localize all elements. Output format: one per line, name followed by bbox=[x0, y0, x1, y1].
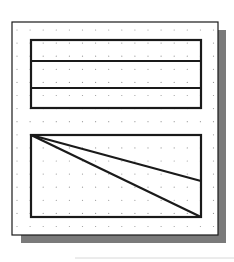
grid-dot bbox=[69, 121, 70, 122]
grid-dot bbox=[121, 147, 122, 148]
grid-dot bbox=[161, 43, 162, 44]
grid-dot bbox=[95, 174, 96, 175]
grid-dot bbox=[147, 43, 148, 44]
grid-dot bbox=[43, 187, 44, 188]
grid-dot bbox=[200, 226, 201, 227]
grid-dot bbox=[147, 174, 148, 175]
grid-dot bbox=[108, 226, 109, 227]
grid-dot bbox=[134, 187, 135, 188]
grid-dot bbox=[108, 200, 109, 201]
grid-dot bbox=[174, 56, 175, 57]
grid-dot bbox=[56, 95, 57, 96]
grid-dot bbox=[134, 56, 135, 57]
grid-dot bbox=[43, 160, 44, 161]
grid-dot bbox=[134, 29, 135, 30]
grid-dot bbox=[213, 200, 214, 201]
grid-dot bbox=[213, 69, 214, 70]
grid-dot bbox=[82, 174, 83, 175]
grid-dot bbox=[213, 174, 214, 175]
grid-dot bbox=[95, 200, 96, 201]
grid-dot bbox=[69, 213, 70, 214]
grid-dot bbox=[16, 108, 17, 109]
grid-dot bbox=[16, 213, 17, 214]
grid-dot bbox=[161, 69, 162, 70]
grid-dot bbox=[147, 95, 148, 96]
grid-dot bbox=[108, 43, 109, 44]
grid-dot bbox=[43, 95, 44, 96]
grid-dot bbox=[147, 200, 148, 201]
grid-dot bbox=[134, 95, 135, 96]
grid-dot bbox=[82, 29, 83, 30]
grid-dot bbox=[147, 213, 148, 214]
grid-dot bbox=[121, 82, 122, 83]
grid-dot bbox=[69, 160, 70, 161]
grid-dot bbox=[43, 213, 44, 214]
grid-dot bbox=[56, 187, 57, 188]
grid-dot bbox=[187, 29, 188, 30]
grid-dot bbox=[213, 82, 214, 83]
grid-dot bbox=[108, 213, 109, 214]
grid-dot bbox=[161, 95, 162, 96]
grid-dot bbox=[147, 187, 148, 188]
grid-dot bbox=[161, 174, 162, 175]
grid-dot bbox=[213, 213, 214, 214]
grid-dot bbox=[16, 29, 17, 30]
grid-dot bbox=[69, 174, 70, 175]
grid-dot bbox=[161, 29, 162, 30]
grid-dot bbox=[108, 82, 109, 83]
grid-dot bbox=[161, 226, 162, 227]
grid-dot bbox=[108, 187, 109, 188]
grid-dot bbox=[161, 213, 162, 214]
grid-dot bbox=[174, 187, 175, 188]
grid-dot bbox=[213, 187, 214, 188]
grid-dot bbox=[16, 174, 17, 175]
grid-dot bbox=[16, 69, 17, 70]
grid-dot bbox=[187, 174, 188, 175]
grid-dot bbox=[82, 69, 83, 70]
grid-dot bbox=[95, 226, 96, 227]
grid-dot bbox=[147, 82, 148, 83]
grid-dot bbox=[121, 29, 122, 30]
grid-dot bbox=[69, 56, 70, 57]
grid-dot bbox=[147, 69, 148, 70]
grid-dot bbox=[56, 29, 57, 30]
grid-dot bbox=[56, 213, 57, 214]
grid-dot bbox=[16, 95, 17, 96]
grid-dot bbox=[213, 147, 214, 148]
grid-dot bbox=[56, 56, 57, 57]
grid-dot bbox=[161, 56, 162, 57]
grid-dot bbox=[161, 147, 162, 148]
grid-dot bbox=[82, 213, 83, 214]
grid-dot bbox=[69, 82, 70, 83]
grid-dot bbox=[43, 226, 44, 227]
grid-dot bbox=[56, 43, 57, 44]
grid-dot bbox=[43, 200, 44, 201]
grid-dot bbox=[213, 56, 214, 57]
grid-dot bbox=[95, 82, 96, 83]
grid-dot bbox=[56, 82, 57, 83]
grid-dot bbox=[213, 226, 214, 227]
grid-dot bbox=[121, 226, 122, 227]
grid-dot bbox=[121, 69, 122, 70]
grid-dot bbox=[16, 187, 17, 188]
grid-dot bbox=[147, 121, 148, 122]
grid-dot bbox=[187, 69, 188, 70]
grid-dot bbox=[187, 187, 188, 188]
grid-dot bbox=[108, 160, 109, 161]
grid-dot bbox=[147, 147, 148, 148]
grid-dot bbox=[161, 200, 162, 201]
grid-dot bbox=[56, 174, 57, 175]
grid-dot bbox=[200, 121, 201, 122]
grid-dot bbox=[174, 147, 175, 148]
grid-dot bbox=[134, 82, 135, 83]
grid-dot bbox=[187, 147, 188, 148]
grid-dot bbox=[121, 187, 122, 188]
grid-dot bbox=[43, 43, 44, 44]
grid-dot bbox=[161, 160, 162, 161]
grid-dot bbox=[174, 69, 175, 70]
grid-dot bbox=[174, 82, 175, 83]
grid-dot bbox=[43, 174, 44, 175]
grid-dot bbox=[108, 147, 109, 148]
grid-dot bbox=[174, 121, 175, 122]
grid-dot bbox=[213, 121, 214, 122]
